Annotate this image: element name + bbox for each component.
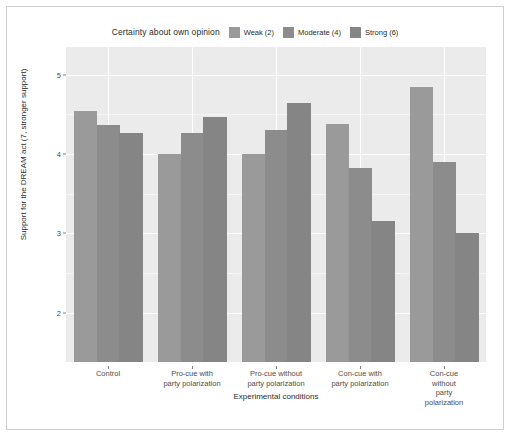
bar[interactable] (455, 233, 478, 362)
legend-label-moderate: Moderate (4) (298, 28, 341, 37)
bar[interactable] (158, 154, 181, 362)
bar[interactable] (433, 162, 456, 362)
bar[interactable] (287, 103, 310, 362)
bar[interactable] (326, 124, 349, 362)
y-tick-label: 5 (57, 70, 61, 79)
legend-item-weak[interactable]: Weak (2) (229, 27, 274, 38)
x-tick-label: Pro-cue withparty polarization (163, 369, 220, 388)
legend-title: Certainty about own opinion (112, 27, 220, 37)
x-tick-label: Control (96, 369, 120, 379)
plot-area (66, 47, 486, 362)
bar[interactable] (74, 111, 97, 362)
y-axis-title: Support for the DREAM act (7, stronger s… (19, 40, 28, 270)
legend-label-weak: Weak (2) (244, 28, 274, 37)
bar[interactable] (203, 117, 226, 362)
legend-item-strong[interactable]: Strong (6) (350, 27, 398, 38)
chart-figure: Certainty about own opinion Weak (2) Mod… (0, 0, 510, 436)
x-tick-label: Con-cue withoutparty polarization (423, 369, 465, 407)
legend-swatch-weak (229, 27, 240, 38)
bar[interactable] (371, 221, 394, 362)
bar[interactable] (349, 168, 372, 362)
chart-legend: Certainty about own opinion Weak (2) Mod… (0, 22, 510, 42)
x-axis-title: Experimental conditions (66, 392, 486, 401)
legend-label-strong: Strong (6) (365, 28, 398, 37)
x-tick-label: Con-cue withparty polarization (331, 369, 388, 388)
y-tick-label: 3 (57, 229, 61, 238)
bar[interactable] (119, 133, 142, 362)
bar[interactable] (410, 87, 433, 362)
legend-swatch-moderate (283, 27, 294, 38)
y-axis: 2345 (46, 47, 66, 362)
y-tick-label: 2 (57, 308, 61, 317)
x-tick-label: Pro-cue withoutparty polarization (247, 369, 304, 388)
bar[interactable] (242, 154, 265, 362)
y-tick-label: 4 (57, 150, 61, 159)
bar[interactable] (265, 130, 288, 362)
bar[interactable] (97, 125, 120, 362)
legend-swatch-strong (350, 27, 361, 38)
bar[interactable] (181, 133, 204, 362)
x-axis: ControlPro-cue withparty polarizationPro… (66, 366, 486, 392)
legend-item-moderate[interactable]: Moderate (4) (283, 27, 341, 38)
